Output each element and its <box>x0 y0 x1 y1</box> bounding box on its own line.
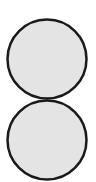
top-circle <box>8 20 87 99</box>
bottom-circle <box>8 101 87 180</box>
diagram-canvas <box>0 0 96 182</box>
